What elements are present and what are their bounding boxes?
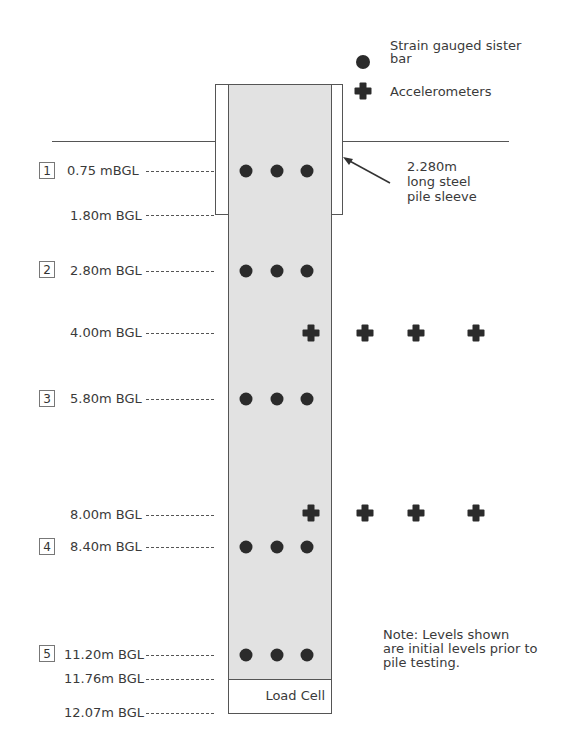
level-label: 2.80m BGL	[70, 263, 142, 278]
load-cell: Load Cell	[228, 679, 332, 714]
level-leader-line	[146, 271, 214, 272]
strain-gauge-icon	[240, 649, 253, 662]
level-leader-line	[146, 215, 214, 216]
strain-gauge-icon	[301, 541, 314, 554]
strain-gauge-icon	[240, 165, 253, 178]
level-label: 11.76m BGL	[64, 671, 144, 686]
level-number-3: 3	[39, 390, 55, 407]
accelerometer-icon	[468, 325, 485, 342]
level-label: 11.20m BGL	[64, 647, 144, 662]
level-number-1: 1	[39, 162, 55, 179]
level-label: 0.75 mBGL	[67, 163, 139, 178]
level-label: 5.80m BGL	[70, 391, 142, 406]
ground-line-right	[343, 141, 509, 142]
strain-gauge-icon	[301, 393, 314, 406]
accelerometer-icon	[408, 505, 425, 522]
level-number-2: 2	[39, 261, 55, 278]
strain-gauge-icon	[271, 265, 284, 278]
strain-gauge-icon	[301, 165, 314, 178]
ground-line-left	[52, 141, 215, 142]
level-label: 4.00m BGL	[70, 325, 142, 340]
legend-strain-label: Strain gauged sister bar	[390, 38, 521, 64]
level-leader-line	[146, 171, 214, 172]
sleeve-annotation: 2.280m long steel pile sleeve	[407, 159, 477, 204]
strain-gauge-icon	[240, 265, 253, 278]
level-label: 8.40m BGL	[70, 539, 142, 554]
strain-gauge-icon	[271, 649, 284, 662]
sleeve-arrow-icon	[340, 155, 400, 195]
level-leader-line	[146, 713, 214, 714]
strain-gauge-icon	[271, 393, 284, 406]
strain-gauge-icon	[271, 165, 284, 178]
load-cell-label: Load Cell	[265, 688, 325, 703]
accelerometer-icon	[408, 325, 425, 342]
level-label: 8.00m BGL	[70, 507, 142, 522]
levels-note: Note: Levels shown are initial levels pr…	[383, 628, 538, 670]
level-leader-line	[146, 333, 214, 334]
accelerometer-icon	[303, 325, 320, 342]
legend-accelerometer-icon	[355, 83, 372, 100]
legend-accelerometer-label: Accelerometers	[390, 84, 491, 99]
strain-gauge-icon	[271, 541, 284, 554]
legend-strain-gauge-icon	[356, 55, 370, 69]
level-leader-line	[146, 515, 214, 516]
strain-gauge-icon	[240, 541, 253, 554]
level-leader-line	[146, 655, 214, 656]
level-label: 1.80m BGL	[70, 208, 142, 223]
level-number-5: 5	[39, 645, 55, 662]
level-leader-line	[146, 399, 214, 400]
strain-gauge-icon	[240, 393, 253, 406]
strain-gauge-icon	[301, 649, 314, 662]
level-leader-line	[146, 679, 214, 680]
accelerometer-icon	[357, 325, 374, 342]
level-leader-line	[146, 547, 214, 548]
level-number-4: 4	[39, 538, 55, 555]
accelerometer-icon	[468, 505, 485, 522]
level-label: 12.07m BGL	[64, 705, 144, 720]
strain-gauge-icon	[301, 265, 314, 278]
accelerometer-icon	[357, 505, 374, 522]
accelerometer-icon	[303, 505, 320, 522]
